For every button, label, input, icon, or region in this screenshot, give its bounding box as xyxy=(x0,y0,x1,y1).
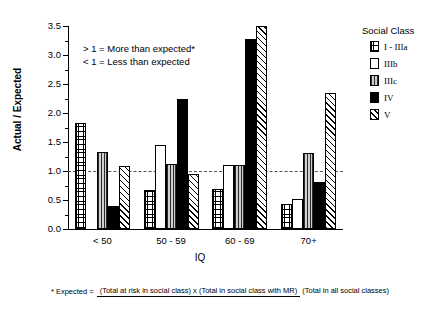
legend-items: I - IIIaIIIbIIIcIVV xyxy=(356,41,440,120)
y-tick-mark xyxy=(63,55,69,56)
bar-70-IV xyxy=(314,182,325,229)
y-tick-mark-minor xyxy=(65,186,69,187)
bar-5059-IIIIa xyxy=(144,190,155,229)
bar-6069-IV xyxy=(245,39,256,229)
legend-item-label: I - IIIa xyxy=(384,42,407,52)
bar-6069-IIIc xyxy=(234,165,245,229)
bar-70-IIIb xyxy=(292,199,303,229)
footnote-fraction: (Total at risk in social class) x (Total… xyxy=(97,286,389,296)
y-tick-mark-minor xyxy=(65,99,69,100)
annotation-line-2: < 1 = Less than expected xyxy=(83,55,195,68)
y-tick-mark-minor xyxy=(65,128,69,129)
y-tick-label: 2.5 xyxy=(21,79,61,89)
y-tick-label: 2.0 xyxy=(21,108,61,118)
x-tick-label: 50 - 59 xyxy=(136,235,206,246)
x-tick-label: < 50 xyxy=(67,235,137,246)
chart-figure: Actual / Expected 0.00.51.01.52.02.53.03… xyxy=(0,0,440,316)
x-tick-label: 60 - 69 xyxy=(205,235,275,246)
y-tick-mark-minor xyxy=(65,41,69,42)
bar-5059-IV xyxy=(177,99,188,229)
legend: Social Class I - IIIaIIIbIIIcIVV xyxy=(356,25,440,126)
y-tick-mark xyxy=(63,26,69,27)
legend-title: Social Class xyxy=(362,25,440,36)
legend-swatch-icon xyxy=(370,75,379,86)
y-tick-mark-minor xyxy=(65,157,69,158)
y-tick-label: 0.5 xyxy=(21,195,61,205)
bar-6069-IIIIa xyxy=(212,189,223,229)
bar-50-IIIIa xyxy=(75,123,86,229)
y-tick-label: 1.0 xyxy=(21,166,61,176)
legend-item-V: V xyxy=(370,109,440,120)
legend-item-label: IIIc xyxy=(384,76,397,86)
y-tick-mark xyxy=(63,142,69,143)
annotation-line-1: > 1 = More than expected* xyxy=(83,42,195,55)
bar-6069-V xyxy=(256,26,267,229)
reference-line-at-1 xyxy=(68,171,343,172)
y-tick-label: 3.0 xyxy=(21,50,61,60)
bar-6069-IIIb xyxy=(223,165,234,229)
footnote-numerator: (Total at risk in social class) x (Total… xyxy=(97,286,301,297)
bar-50-V xyxy=(119,166,130,229)
legend-item-IIIc: IIIc xyxy=(370,75,440,86)
y-tick-label: 1.5 xyxy=(21,137,61,147)
legend-item-label: IV xyxy=(384,93,394,103)
bar-50-IIIc xyxy=(97,152,108,229)
legend-item-IIIIa: I - IIIa xyxy=(370,41,440,52)
bar-70-IIIc xyxy=(303,153,314,229)
bar-70-IIIIa xyxy=(281,204,292,229)
y-tick-mark xyxy=(63,113,69,114)
y-tick-mark xyxy=(63,200,69,201)
legend-item-IIIb: IIIb xyxy=(370,58,440,69)
legend-item-IV: IV xyxy=(370,92,440,103)
legend-swatch-icon xyxy=(370,109,379,120)
bar-5059-V xyxy=(188,174,199,229)
y-tick-mark xyxy=(63,229,69,230)
y-tick-mark-minor xyxy=(65,70,69,71)
legend-item-label: V xyxy=(384,110,391,120)
y-tick-label: 0.0 xyxy=(21,224,61,234)
bar-5059-IIIb xyxy=(155,145,166,229)
bar-70-V xyxy=(325,93,336,229)
bar-50-IV xyxy=(108,206,119,229)
x-axis-line xyxy=(68,229,343,230)
footnote-denominator: (Total in all social classes) xyxy=(302,285,389,295)
footnote-lead: * Expected = xyxy=(51,287,94,296)
x-axis-label: IQ xyxy=(170,252,230,263)
legend-item-label: IIIb xyxy=(384,59,398,69)
footnote: * Expected = (Total at risk in social cl… xyxy=(34,286,406,296)
x-tick-label: 70+ xyxy=(274,235,344,246)
legend-swatch-icon xyxy=(370,41,379,52)
bar-5059-IIIc xyxy=(166,164,177,229)
legend-swatch-icon xyxy=(370,92,379,103)
y-tick-mark xyxy=(63,84,69,85)
y-tick-label: 3.5 xyxy=(21,21,61,31)
y-tick-mark-minor xyxy=(65,215,69,216)
plot-annotation: > 1 = More than expected* < 1 = Less tha… xyxy=(83,42,195,68)
legend-swatch-icon xyxy=(370,58,379,69)
